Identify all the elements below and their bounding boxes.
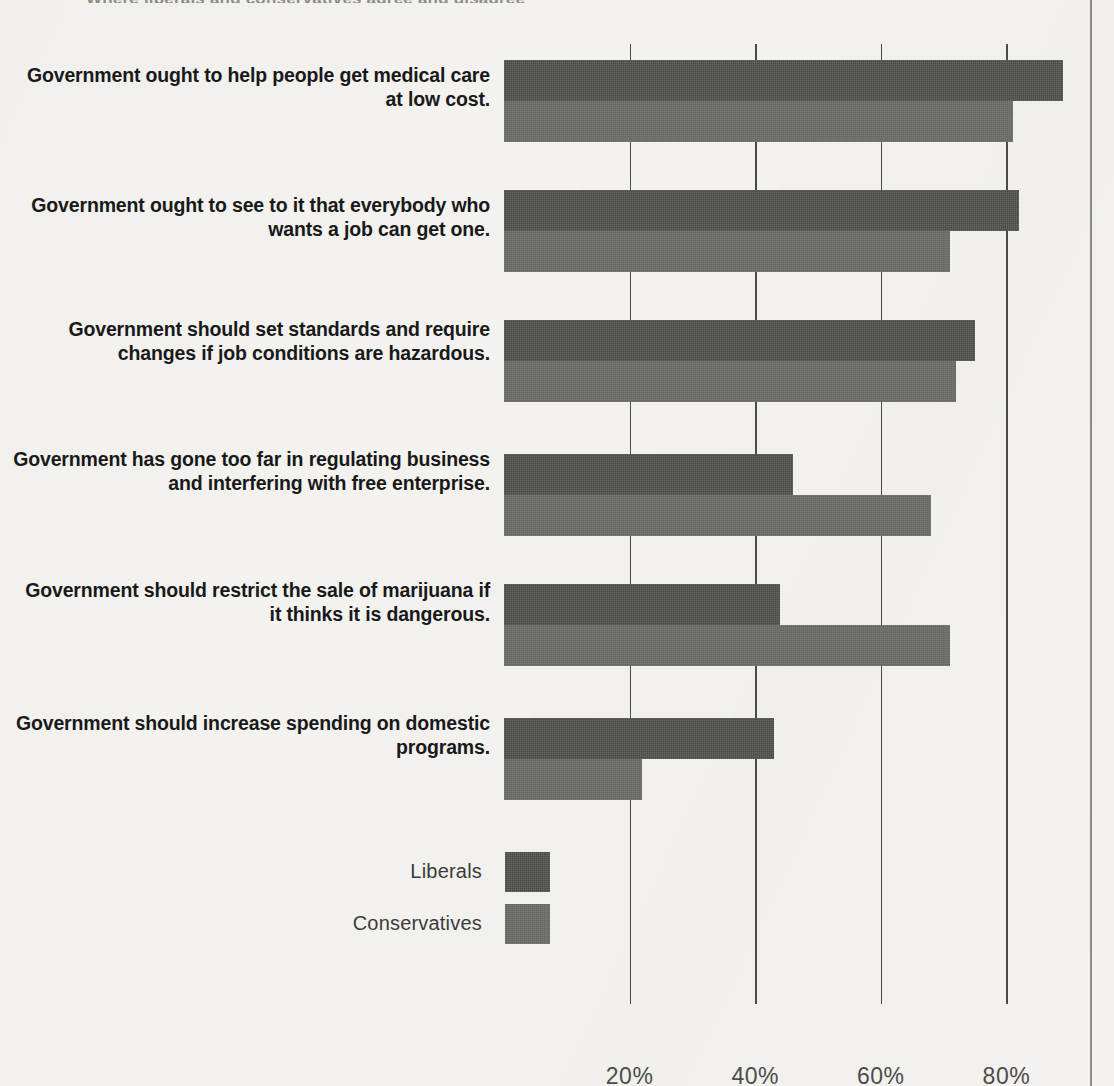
plot-area: 20%40%60%80% xyxy=(504,44,1090,1044)
category-label: Government should set standards and requ… xyxy=(10,318,490,365)
bar-liberals xyxy=(504,190,1019,231)
bar-conservatives xyxy=(504,495,931,536)
page-right-rule xyxy=(1090,0,1092,1086)
chart-page: Where liberals and conservatives agree a… xyxy=(0,0,1114,1086)
bar-liberals xyxy=(504,718,774,759)
legend-swatch-liberals xyxy=(505,852,550,892)
bar-liberals xyxy=(504,320,975,361)
bar-conservatives xyxy=(504,231,950,272)
category-label: Government should increase spending on d… xyxy=(10,712,490,759)
x-tick-40: 40% xyxy=(710,1063,800,1086)
bar-liberals xyxy=(504,584,780,625)
x-tick-80: 80% xyxy=(961,1063,1051,1086)
category-label: Government has gone too far in regulatin… xyxy=(10,448,490,495)
page-title: Where liberals and conservatives agree a… xyxy=(86,0,606,3)
bar-conservatives xyxy=(504,759,642,800)
legend-item-conservatives[interactable]: Conservatives xyxy=(0,900,556,946)
bar-group xyxy=(504,320,1090,402)
legend-label: Conservatives xyxy=(0,900,482,946)
legend-label: Liberals xyxy=(0,848,482,894)
bar-group xyxy=(504,60,1090,142)
x-tick-20: 20% xyxy=(585,1063,675,1086)
category-label: Government ought to help people get medi… xyxy=(10,64,490,111)
bar-conservatives xyxy=(504,101,1013,142)
bar-group xyxy=(504,584,1090,666)
bar-liberals xyxy=(504,454,793,495)
category-label: Government ought to see to it that every… xyxy=(10,194,490,241)
x-tick-60: 60% xyxy=(836,1063,926,1086)
legend-swatch-conservatives xyxy=(505,904,550,944)
bar-liberals xyxy=(504,60,1063,101)
bar-group xyxy=(504,190,1090,272)
bar-conservatives xyxy=(504,625,950,666)
bar-group xyxy=(504,718,1090,800)
category-label: Government should restrict the sale of m… xyxy=(10,579,490,626)
legend-item-liberals[interactable]: Liberals xyxy=(0,848,556,894)
bar-group xyxy=(504,454,1090,536)
bar-conservatives xyxy=(504,361,956,402)
